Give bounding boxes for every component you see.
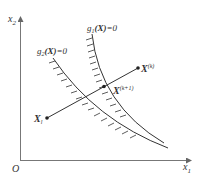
origin-label: O bbox=[12, 163, 19, 174]
g2-hatching bbox=[49, 61, 136, 138]
point-xl bbox=[45, 116, 49, 120]
label-xl: Xl bbox=[33, 113, 43, 125]
point-xk1 bbox=[102, 85, 106, 89]
label-g2: g2(X)=0 bbox=[37, 46, 68, 57]
label-xk: X(k) bbox=[140, 63, 154, 74]
point-xk bbox=[136, 66, 140, 70]
axes bbox=[20, 17, 191, 161]
y-axis-label: x2 bbox=[7, 13, 16, 27]
constraint-diagram: x2 O x1 bbox=[0, 0, 204, 183]
x-axis-label: x1 bbox=[182, 161, 191, 175]
label-g1: g1(X)=0 bbox=[87, 23, 118, 34]
label-xk1: X(k+1) bbox=[112, 85, 133, 96]
